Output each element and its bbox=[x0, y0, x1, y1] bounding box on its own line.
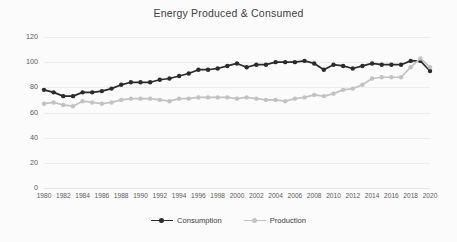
data-point bbox=[273, 98, 277, 102]
x-axis-tick-label: 1988 bbox=[114, 191, 129, 200]
data-point bbox=[293, 60, 297, 64]
data-point bbox=[370, 76, 374, 80]
x-axis-tick-label: 2020 bbox=[423, 191, 438, 200]
data-point bbox=[254, 62, 258, 66]
data-point bbox=[283, 60, 287, 64]
x-axis-tick-label: 1994 bbox=[172, 191, 187, 200]
x-axis-tick-label: 2014 bbox=[365, 191, 380, 200]
data-point bbox=[148, 96, 152, 100]
legend-marker-production bbox=[244, 217, 266, 225]
data-point bbox=[360, 83, 364, 87]
y-axis-tick-label: 60 bbox=[4, 109, 38, 117]
data-point bbox=[61, 103, 65, 107]
data-point bbox=[409, 65, 413, 69]
data-point bbox=[177, 96, 181, 100]
data-point bbox=[61, 94, 65, 98]
data-point bbox=[370, 61, 374, 65]
data-point bbox=[302, 59, 306, 63]
x-axis-tick-label: 2018 bbox=[403, 191, 418, 200]
x-axis-tick-label: 2016 bbox=[384, 191, 399, 200]
plot-area bbox=[44, 37, 430, 188]
data-point bbox=[51, 100, 55, 104]
x-axis-tick-label: 1980 bbox=[37, 191, 52, 200]
y-axis-tick-label: 100 bbox=[4, 58, 38, 66]
data-point bbox=[331, 91, 335, 95]
data-point bbox=[80, 90, 84, 94]
data-point bbox=[206, 68, 210, 72]
data-point bbox=[196, 95, 200, 99]
data-point bbox=[399, 75, 403, 79]
data-point bbox=[264, 62, 268, 66]
data-point bbox=[129, 80, 133, 84]
data-point bbox=[389, 75, 393, 79]
x-axis-tick-label: 2004 bbox=[268, 191, 283, 200]
y-axis-labels: 020406080100120 bbox=[0, 37, 38, 188]
data-point bbox=[80, 99, 84, 103]
data-point bbox=[235, 61, 239, 65]
data-point bbox=[42, 101, 46, 105]
chart-title: Energy Produced & Consumed bbox=[0, 7, 457, 19]
data-point bbox=[158, 98, 162, 102]
data-point bbox=[273, 60, 277, 64]
x-axis-tick-label: 1998 bbox=[210, 191, 225, 200]
x-axis-tick-label: 1982 bbox=[56, 191, 71, 200]
data-point bbox=[428, 69, 432, 73]
data-point bbox=[283, 99, 287, 103]
data-point bbox=[138, 96, 142, 100]
chart-legend: Consumption Production bbox=[0, 216, 457, 225]
y-axis-tick-label: 120 bbox=[4, 33, 38, 41]
data-point bbox=[187, 71, 191, 75]
data-point bbox=[380, 62, 384, 66]
data-point bbox=[167, 99, 171, 103]
x-axis-tick-label: 2012 bbox=[345, 191, 360, 200]
data-point bbox=[244, 95, 248, 99]
data-point bbox=[187, 96, 191, 100]
data-point bbox=[216, 66, 220, 70]
data-point bbox=[109, 86, 113, 90]
x-axis-tick-label: 2000 bbox=[230, 191, 245, 200]
data-point bbox=[399, 62, 403, 66]
data-point bbox=[341, 88, 345, 92]
data-point bbox=[167, 76, 171, 80]
x-axis-tick-label: 1996 bbox=[191, 191, 206, 200]
legend-item-consumption[interactable]: Consumption bbox=[151, 216, 222, 225]
x-axis-tick-label: 1990 bbox=[133, 191, 148, 200]
data-point bbox=[177, 74, 181, 78]
y-axis-tick-label: 0 bbox=[4, 184, 38, 192]
data-point bbox=[351, 86, 355, 90]
data-point bbox=[119, 98, 123, 102]
x-axis-labels: 1980198219841986198819901992199419961998… bbox=[44, 191, 430, 203]
data-point bbox=[100, 89, 104, 93]
x-axis-tick-label: 2008 bbox=[307, 191, 322, 200]
data-point bbox=[322, 68, 326, 72]
data-point bbox=[264, 98, 268, 102]
data-point bbox=[148, 80, 152, 84]
x-axis-tick-label: 2006 bbox=[288, 191, 303, 200]
y-axis-tick-label: 40 bbox=[4, 134, 38, 142]
data-point bbox=[51, 90, 55, 94]
data-point bbox=[312, 93, 316, 97]
data-point bbox=[389, 62, 393, 66]
data-point bbox=[129, 96, 133, 100]
legend-label-consumption: Consumption bbox=[177, 216, 222, 225]
data-point bbox=[322, 94, 326, 98]
data-point bbox=[206, 95, 210, 99]
data-point bbox=[254, 96, 258, 100]
y-axis-tick-label: 80 bbox=[4, 83, 38, 91]
data-point bbox=[225, 64, 229, 68]
data-point bbox=[158, 78, 162, 82]
data-point bbox=[312, 61, 316, 65]
x-axis-tick-label: 2010 bbox=[326, 191, 341, 200]
data-point bbox=[109, 100, 113, 104]
data-point bbox=[71, 94, 75, 98]
data-point bbox=[360, 64, 364, 68]
data-point bbox=[302, 95, 306, 99]
legend-item-production[interactable]: Production bbox=[244, 216, 306, 225]
data-point bbox=[138, 80, 142, 84]
data-point bbox=[225, 95, 229, 99]
data-point bbox=[235, 96, 239, 100]
data-point bbox=[100, 101, 104, 105]
data-point bbox=[119, 83, 123, 87]
x-axis-tick-label: 1984 bbox=[75, 191, 90, 200]
data-point bbox=[244, 65, 248, 69]
